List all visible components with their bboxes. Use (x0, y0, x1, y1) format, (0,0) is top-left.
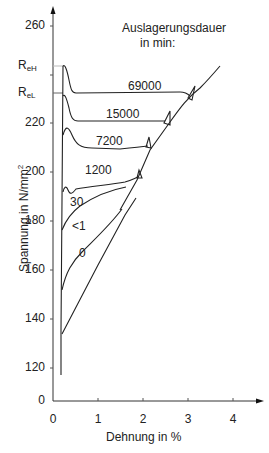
x-axis-label: Dehnung in % (106, 430, 181, 444)
curve-label-1200: 1200 (85, 163, 112, 177)
curve-label-7200: 7200 (96, 134, 123, 148)
y-tick-220: 220 (5, 115, 45, 129)
x-tick-4: 4 (223, 412, 243, 426)
curve-label-15000: 15000 (106, 107, 139, 121)
y-tick-120: 120 (5, 360, 45, 374)
rel-label: ReL (18, 85, 36, 100)
x-tick-1: 1 (88, 412, 108, 426)
x-tick-2: 2 (133, 412, 153, 426)
reh-label: ReH (18, 58, 37, 73)
curve-69000 (63, 66, 190, 96)
curve-label-0: 0 (79, 246, 86, 260)
x-tick-0: 0 (43, 412, 63, 426)
curve-lt1 (62, 209, 122, 290)
marker-7200 (146, 137, 151, 148)
curve-label-69000: 69000 (128, 79, 161, 93)
curve-label-30: 30 (70, 195, 83, 209)
chart-title-line1: Auslagerungsdauer (122, 21, 226, 35)
elastic-line (61, 66, 63, 375)
curve-1200 (63, 177, 138, 193)
x-tick-3: 3 (178, 412, 198, 426)
y-tick-260: 260 (5, 18, 45, 32)
y-tick-0: 0 (5, 393, 45, 407)
y-axis-arrow-icon (51, 6, 56, 14)
x-axis-arrow-icon (256, 399, 264, 404)
chart-title-line2: in min: (140, 36, 175, 50)
curve-label-lt1: <1 (72, 219, 86, 233)
y-tick-140: 140 (5, 311, 45, 325)
y-axis-label: Spannung in N/mm2 (16, 165, 31, 272)
